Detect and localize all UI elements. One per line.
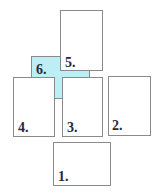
card-3-label: 3. (67, 121, 78, 135)
card-2: 2. (108, 76, 151, 136)
card-1-label: 1. (58, 170, 69, 184)
card-3: 3. (62, 77, 103, 137)
card-5-label: 5. (65, 56, 76, 70)
card-1: 1. (53, 142, 111, 186)
card-2-label: 2. (112, 119, 123, 133)
card-6-label: 6. (36, 63, 47, 77)
card-4: 4. (13, 77, 55, 137)
card-4-label: 4. (18, 121, 29, 135)
card-5: 5. (60, 10, 103, 71)
